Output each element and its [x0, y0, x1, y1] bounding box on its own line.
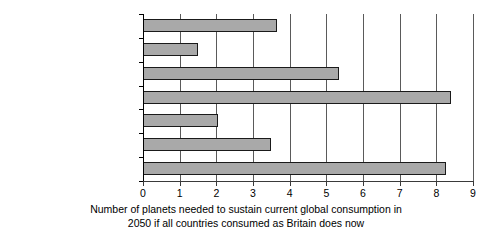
bar-row [143, 62, 473, 86]
bar-construction-aggregates [143, 114, 218, 127]
bar-steel [143, 67, 339, 80]
x-tick-label-0: 0 [133, 187, 153, 199]
x-tick-label-4: 4 [280, 187, 300, 199]
bar-row [143, 133, 473, 157]
x-axis-line [143, 181, 474, 182]
bar-chart: WoodLandSteelAluminiumConstruction aggre… [0, 0, 492, 195]
x-tick-mark-7 [400, 181, 401, 186]
x-tick-mark-0 [143, 181, 144, 186]
x-tick-label-8: 8 [426, 187, 446, 199]
caption-line-1: Number of planets needed to sustain curr… [0, 203, 492, 217]
bar-land [143, 43, 198, 56]
bar-wood [143, 19, 277, 32]
x-tick-mark-5 [326, 181, 327, 186]
x-tick-label-1: 1 [170, 187, 190, 199]
plot-area: WoodLandSteelAluminiumConstruction aggre… [143, 14, 473, 181]
bar-row [143, 38, 473, 62]
bar-aluminium [143, 91, 451, 104]
x-tick-mark-6 [363, 181, 364, 186]
x-tick-label-7: 7 [390, 187, 410, 199]
caption-line-2: 2050 if all countries consumed as Britai… [0, 217, 492, 231]
x-tick-mark-4 [290, 181, 291, 186]
bar-cement [143, 138, 271, 151]
chart-caption: Number of planets needed to sustain curr… [0, 203, 492, 230]
bar-row [143, 86, 473, 110]
bar-row [143, 14, 473, 38]
x-tick-mark-1 [180, 181, 181, 186]
x-tick-label-2: 2 [206, 187, 226, 199]
x-tick-label-3: 3 [243, 187, 263, 199]
x-tick-mark-3 [253, 181, 254, 186]
x-tick-label-9: 9 [463, 187, 483, 199]
bar-row [143, 157, 473, 181]
y-axis-line [143, 14, 144, 181]
figure: WoodLandSteelAluminiumConstruction aggre… [0, 0, 492, 242]
gridline-9 [473, 14, 474, 181]
x-tick-mark-8 [436, 181, 437, 186]
x-tick-label-6: 6 [353, 187, 373, 199]
bar-row [143, 109, 473, 133]
x-tick-label-5: 5 [316, 187, 336, 199]
x-tick-mark-2 [216, 181, 217, 186]
bar-energy-co2 [143, 162, 446, 175]
x-tick-mark-9 [473, 181, 474, 186]
